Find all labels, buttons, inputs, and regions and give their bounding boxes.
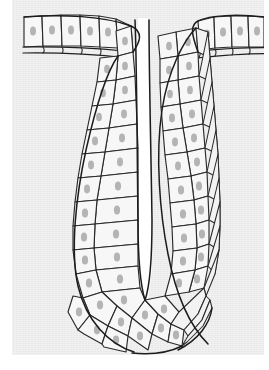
figure-container xyxy=(0,0,269,370)
invagination-tip xyxy=(68,288,184,352)
drawing-plate xyxy=(12,0,264,355)
epithelial-invagination-drawing xyxy=(12,0,264,355)
